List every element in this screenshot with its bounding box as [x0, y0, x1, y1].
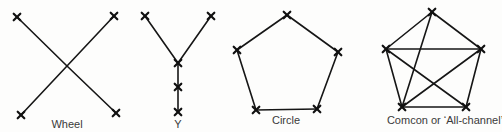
node-cross-icon: [14, 14, 21, 21]
network-canvas: [0, 0, 502, 132]
wheel-network: [14, 13, 120, 119]
circle-network: [234, 12, 342, 114]
edge-line: [386, 49, 466, 107]
edge-line: [237, 50, 256, 110]
comcon-label: Comcon or ‘All-channel’: [387, 114, 502, 126]
node-cross-icon: [18, 112, 25, 119]
edge-line: [432, 12, 481, 49]
edge-line: [67, 16, 114, 66]
edge-line: [17, 17, 67, 66]
edge-line: [402, 12, 432, 107]
node-cross-icon: [284, 12, 291, 19]
edge-line: [21, 66, 67, 115]
edge-line: [145, 16, 178, 63]
edge-line: [237, 15, 287, 50]
wheel-label: Wheel: [51, 118, 82, 130]
communication-networks-diagram: Wheel Y Circle Comcon or ‘All-channel’: [0, 0, 502, 132]
edge-line: [317, 52, 338, 109]
edge-line: [402, 49, 481, 107]
edge-line: [256, 109, 317, 110]
edge-line: [386, 49, 402, 107]
edge-line: [287, 15, 338, 52]
node-cross-icon: [113, 110, 120, 117]
comcon-network: [383, 9, 485, 111]
node-cross-icon: [142, 13, 149, 20]
y-label: Y: [174, 118, 181, 130]
node-cross-icon: [111, 13, 118, 20]
circle-label: Circle: [272, 114, 300, 126]
edge-line: [67, 66, 116, 113]
node-cross-icon: [208, 13, 215, 20]
y-network: [142, 13, 215, 116]
edge-line: [178, 16, 211, 63]
edge-line: [386, 12, 432, 49]
